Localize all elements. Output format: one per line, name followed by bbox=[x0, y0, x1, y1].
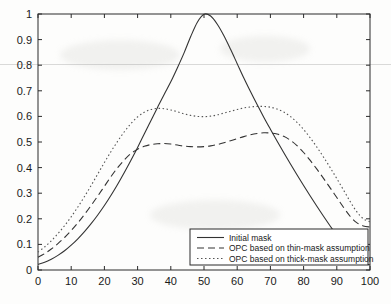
chart-legend: Initial maskOPC based on thin-mask assum… bbox=[190, 229, 374, 265]
x-tick-label: 10 bbox=[65, 275, 77, 287]
x-tick-label: 40 bbox=[165, 275, 177, 287]
x-tick-label: 0 bbox=[35, 275, 41, 287]
y-tick-label: 0.1 bbox=[17, 238, 32, 250]
y-tick-label: 0.3 bbox=[17, 187, 32, 199]
x-tick-label: 80 bbox=[297, 275, 309, 287]
x-tick-label: 20 bbox=[98, 275, 110, 287]
chart-plot-area: 0102030405060708090100 00.10.20.30.40.50… bbox=[0, 0, 391, 304]
y-tick-label: 0.6 bbox=[17, 110, 32, 122]
x-tick-label: 70 bbox=[264, 275, 276, 287]
y-tick-label: 0.4 bbox=[17, 162, 32, 174]
x-tick-label: 30 bbox=[131, 275, 143, 287]
y-tick-label: 1 bbox=[26, 8, 32, 20]
y-tick-label: 0.9 bbox=[17, 34, 32, 46]
legend-label-1: OPC based on thin-mask assumption bbox=[229, 243, 370, 253]
y-axis-tick-labels: 00.10.20.30.40.50.60.70.80.91 bbox=[17, 8, 32, 276]
y-tick-label: 0.5 bbox=[17, 136, 32, 148]
legend-label-2: OPC based on thick-mask assumption bbox=[229, 254, 374, 264]
x-tick-label: 90 bbox=[331, 275, 343, 287]
y-tick-label: 0.2 bbox=[17, 213, 32, 225]
y-tick-label: 0 bbox=[26, 264, 32, 276]
data-series-layer bbox=[38, 14, 370, 265]
legend-label-0: Initial mask bbox=[229, 233, 272, 243]
y-tick-label: 0.7 bbox=[17, 85, 32, 97]
x-tick-label: 100 bbox=[361, 275, 379, 287]
y-tick-label: 0.8 bbox=[17, 59, 32, 71]
series-line-0 bbox=[38, 14, 370, 265]
x-tick-label: 50 bbox=[198, 275, 210, 287]
x-tick-label: 60 bbox=[231, 275, 243, 287]
x-axis-tick-labels: 0102030405060708090100 bbox=[35, 275, 379, 287]
chart-figure: 0102030405060708090100 00.10.20.30.40.50… bbox=[0, 0, 391, 304]
